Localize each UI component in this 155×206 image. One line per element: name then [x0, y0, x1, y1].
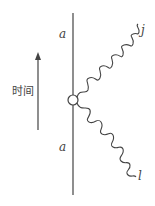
line-label-top: a	[59, 28, 66, 40]
wave-lower	[77, 103, 136, 177]
wave-label-lower: l	[138, 170, 142, 182]
line-label-bottom: a	[59, 141, 66, 153]
time-label: 时间	[12, 86, 34, 97]
feynman-diagram	[0, 0, 155, 206]
vertex-circle	[68, 95, 78, 105]
arrow-head-icon	[35, 52, 41, 60]
wave-upper	[77, 24, 139, 97]
wave-label-upper: j	[141, 24, 145, 36]
